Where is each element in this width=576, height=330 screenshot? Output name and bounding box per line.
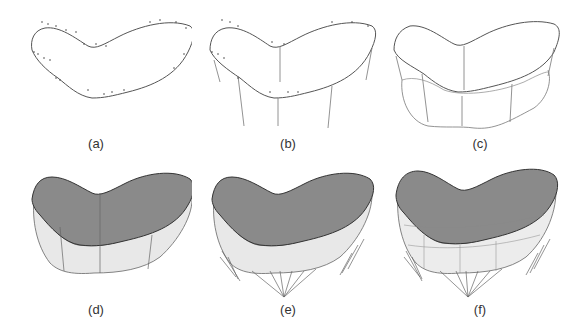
point-cloud xyxy=(211,19,369,93)
panel-label-a: (a) xyxy=(0,136,192,151)
panel-label-f: (f) xyxy=(384,302,576,317)
panel-label-e: (e) xyxy=(192,302,384,317)
panel-b: (b) xyxy=(192,0,384,165)
guide-lines xyxy=(396,46,554,126)
panel-a: (a) xyxy=(0,0,192,165)
panel-label-b: (b) xyxy=(192,136,384,151)
panel-c: (c) xyxy=(384,0,576,165)
panel-d: (d) xyxy=(0,165,192,330)
panel-label-d: (d) xyxy=(0,302,192,317)
guide-lines xyxy=(214,46,372,128)
panel-f: (f) xyxy=(384,165,576,330)
point-cloud xyxy=(33,19,187,95)
panel-e: (e) xyxy=(192,165,384,330)
panel-label-c: (c) xyxy=(384,136,576,151)
